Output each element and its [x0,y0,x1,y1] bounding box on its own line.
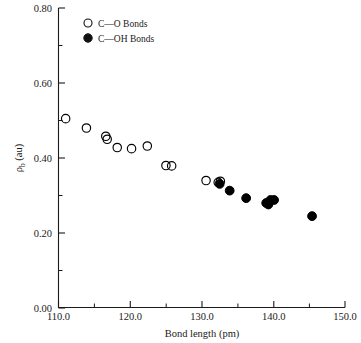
legend: C—O Bonds C—OH Bonds [84,19,155,44]
scatter-plot: 0.80 0.60 0.40 0.20 0.00 110.0 120.0 130… [0,0,361,343]
y-axis-major-ticks [59,8,66,308]
data-point [202,176,210,184]
data-point [225,186,234,195]
axis-lines [58,8,345,308]
legend-marker-open-circle-icon [84,19,92,27]
y-tick-label-080: 0.80 [34,3,52,14]
data-point [143,142,151,150]
legend-label-c-oh-bonds: C—OH Bonds [98,34,155,44]
data-point [127,144,135,152]
x-axis-title: Bond length (pm) [165,328,240,340]
svg-text:ρb (au): ρb (au) [13,143,27,172]
data-point [308,212,317,221]
data-point [270,196,279,205]
data-point [82,124,90,132]
y-tick-label-040: 0.40 [34,153,52,164]
data-point [61,114,69,122]
x-axis-major-ticks [59,301,346,308]
legend-label-c-o-bonds: C—O Bonds [98,19,148,29]
data-point [242,194,251,203]
x-tick-label-140: 140.0 [262,311,286,322]
data-point [215,179,224,188]
y-axis-title: ρb (au) [13,143,27,172]
series-c-oh-bonds-points [215,179,316,220]
legend-marker-filled-circle-icon [84,34,92,42]
x-tick-label-120: 120.0 [118,311,142,322]
data-point [167,162,175,170]
data-point [113,143,121,151]
data-point [103,135,111,143]
y-tick-label-060: 0.60 [34,78,52,89]
x-tick-label-150: 150.0 [333,311,357,322]
y-axis-title-unit: (au) [13,143,25,163]
series-c-o-bonds-points [61,114,224,186]
x-tick-label-130: 130.0 [190,311,214,322]
y-tick-label-020: 0.20 [34,228,52,239]
chart-figure: 0.80 0.60 0.40 0.20 0.00 110.0 120.0 130… [0,0,361,343]
x-tick-label-110: 110.0 [47,311,70,322]
